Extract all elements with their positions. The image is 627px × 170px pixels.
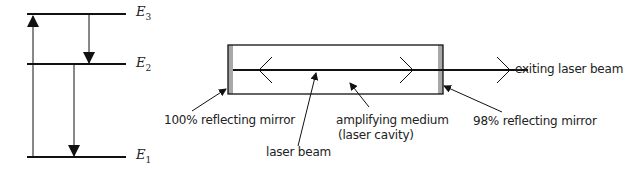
label-medium-line1: amplifying medium bbox=[336, 113, 449, 127]
label-left-mirror: 100% reflecting mirror bbox=[164, 113, 295, 127]
pointer-medium bbox=[350, 83, 369, 107]
label-medium-line2: (laser cavity) bbox=[338, 128, 414, 142]
pointer-left-mirror bbox=[192, 89, 226, 111]
label-right-mirror: 98% reflecting mirror bbox=[473, 114, 597, 128]
label-e3: E3 bbox=[136, 4, 151, 22]
label-laser-beam: laser beam bbox=[266, 145, 331, 159]
left-mirror bbox=[228, 45, 233, 94]
energy-level-diagram bbox=[27, 14, 126, 157]
label-e1: E1 bbox=[136, 147, 151, 165]
label-e2: E2 bbox=[136, 55, 151, 73]
pointer-laser-beam bbox=[298, 73, 316, 146]
pointer-right-mirror bbox=[444, 86, 502, 112]
label-exiting-beam: exiting laser beam bbox=[515, 62, 623, 76]
laser-cavity bbox=[228, 45, 528, 94]
